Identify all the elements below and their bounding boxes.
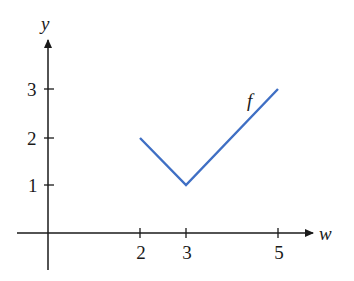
x-tick-label-5: 5	[274, 242, 284, 263]
curve-f	[140, 89, 278, 185]
y-axis-label: y	[39, 13, 50, 34]
graph: y w 3 2 1 2 3 5 f	[0, 0, 354, 281]
x-tick-label-2: 2	[136, 242, 146, 263]
y-tick-label-1: 1	[28, 175, 38, 196]
x-tick-label-3: 3	[182, 242, 192, 263]
x-axis-label: w	[319, 223, 332, 244]
curve-label-f: f	[247, 90, 255, 111]
y-tick-label-2: 2	[27, 128, 37, 149]
y-tick-label-3: 3	[27, 79, 37, 100]
y-ticks: 3 2 1	[27, 79, 54, 196]
